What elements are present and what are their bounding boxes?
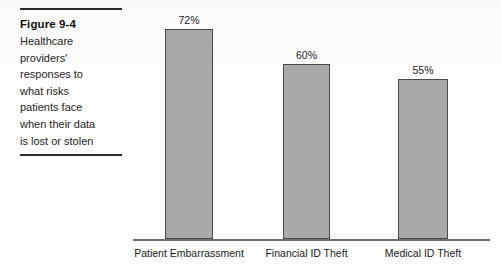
bar-1 (165, 29, 213, 239)
bar-value-label: 72% (149, 14, 229, 26)
bar-2 (283, 64, 330, 239)
figure-page: Figure 9-4 Healthcare providers' respons… (0, 0, 501, 271)
x-axis-label: Medical ID Theft (343, 247, 501, 259)
bar-chart: 72%Patient Embarrassment60%Financial ID … (0, 0, 501, 271)
bar-value-label: 60% (267, 49, 347, 61)
bar-value-label: 55% (383, 64, 463, 76)
x-axis-line (133, 239, 490, 241)
bar-3 (398, 79, 448, 239)
